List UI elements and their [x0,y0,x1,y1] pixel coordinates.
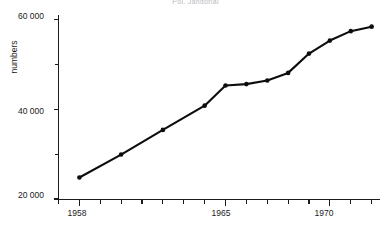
chart-container: Pol. Janitorial numbers 60 000 40 000 20… [0,0,391,236]
data-point-markers [77,24,374,179]
y-tick-marks [54,19,59,199]
chart-canvas [0,0,391,236]
